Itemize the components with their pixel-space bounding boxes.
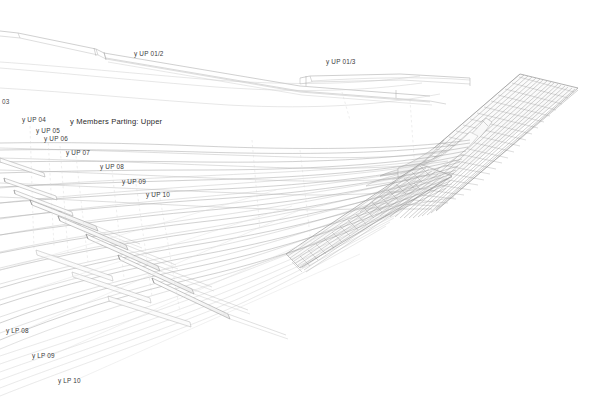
cad-linework	[0, 0, 594, 407]
beam-up-01-2	[0, 31, 446, 105]
label-up-03: 03	[2, 99, 9, 105]
label-up-10: y UP 10	[146, 192, 170, 198]
label-up-05: y UP 05	[36, 128, 60, 134]
label-up-04: y UP 04	[22, 117, 46, 123]
label-up-01-2: y UP 01/2	[134, 51, 164, 57]
label-lp-10: y LP 10	[58, 378, 81, 384]
beam-up-01-3	[300, 74, 470, 84]
curve-upper-sweep	[0, 62, 440, 107]
drawing-title: y Members Parting: Upper	[70, 118, 162, 126]
drawing-canvas: 03 y UP 01/2 y UP 01/3 y Members Parting…	[0, 0, 594, 407]
label-lp-08: y LP 08	[6, 328, 29, 334]
label-up-06: y UP 06	[44, 136, 68, 142]
label-up-01-3: y UP 01/3	[326, 59, 356, 65]
label-up-09: y UP 09	[122, 179, 146, 185]
label-up-08: y UP 08	[100, 164, 124, 170]
label-up-07: y UP 07	[66, 150, 90, 156]
label-lp-09: y LP 09	[32, 353, 55, 359]
member-fan-secondary	[0, 160, 430, 349]
